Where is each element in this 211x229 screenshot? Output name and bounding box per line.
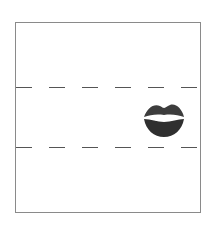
dashed-line-top — [16, 87, 200, 88]
faded-header-text — [8, 0, 203, 4]
dashed-line-bottom — [16, 147, 200, 148]
lips-icon — [142, 100, 186, 140]
